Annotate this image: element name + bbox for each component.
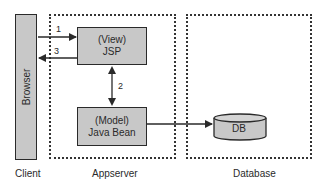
appserver-zone-label: Appserver (92, 168, 138, 179)
arrow-1-label: 1 (56, 24, 61, 34)
arrow-2-label: 2 (118, 81, 123, 91)
client-zone-label: Client (15, 168, 41, 179)
database-zone-label: Database (233, 168, 276, 179)
db-label: DB (232, 123, 246, 134)
arrow-3-label: 3 (54, 46, 59, 56)
connectors-layer (0, 0, 332, 184)
